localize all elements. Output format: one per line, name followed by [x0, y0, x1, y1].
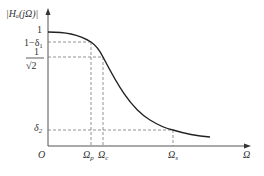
y-axis-arrow-icon	[46, 8, 51, 15]
y-tick-one: 1	[37, 24, 42, 35]
magnitude-curve	[48, 32, 210, 137]
x-axis-label: Ω	[243, 149, 250, 160]
y-tick-delta2: δ2	[34, 122, 43, 135]
origin-label: O	[38, 149, 45, 160]
x-axis-arrow-icon	[244, 144, 251, 149]
axes	[46, 8, 252, 149]
chart-canvas: |Hₐ(jΩ)| 1 1−δ1 1 √2 δ2 O Ωp Ωc Ωs Ω	[0, 0, 264, 176]
y-tick-inv-sqrt2-denominator: √2	[26, 60, 37, 71]
y-tick-inv-sqrt2-numerator: 1	[34, 46, 39, 57]
y-axis-label: |Hₐ(jΩ)|	[6, 8, 38, 20]
guide-lines	[48, 42, 173, 146]
x-tick-omega-p: Ωp	[83, 149, 94, 162]
x-tick-omega-c: Ωc	[98, 149, 109, 162]
x-tick-omega-s: Ωs	[168, 149, 178, 162]
